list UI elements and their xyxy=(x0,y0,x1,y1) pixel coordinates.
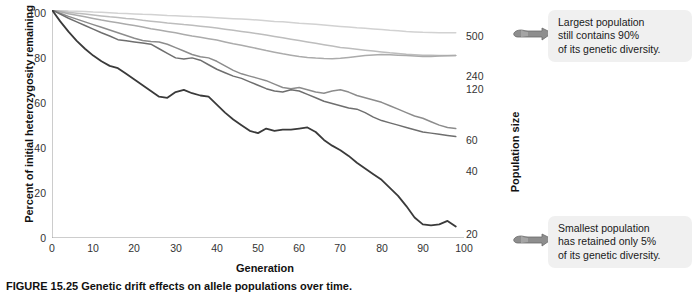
callout-line: still contains 90% xyxy=(558,29,684,42)
y-axis-tick-labels: 0 20 40 60 80 100 xyxy=(16,0,46,248)
plot-area xyxy=(52,10,464,238)
y-tick-label: 80 xyxy=(18,53,46,64)
y-tick-label: 60 xyxy=(18,98,46,109)
x-axis-title: Generation xyxy=(150,262,380,274)
callout-line: has retained only 5% xyxy=(558,235,684,248)
callout-largest-population: Largest population still contains 90% of… xyxy=(548,10,692,62)
y-tick-label: 40 xyxy=(18,143,46,154)
callout-line: Largest population xyxy=(558,16,684,29)
series-end-labels: 500 240 120 60 40 20 xyxy=(466,0,502,250)
x-tick-label: 50 xyxy=(243,243,273,254)
series-line-60 xyxy=(52,10,456,129)
x-tick-label: 70 xyxy=(325,243,355,254)
series-paths xyxy=(52,10,456,227)
series-label-60: 60 xyxy=(466,135,500,146)
callout-line: Smallest population xyxy=(558,222,684,235)
chart-canvas xyxy=(52,10,464,238)
x-tick-label: 60 xyxy=(284,243,314,254)
figure-caption: FIGURE 15.25 Genetic drift effects on al… xyxy=(6,280,566,292)
series-label-500: 500 xyxy=(466,31,500,42)
series-label-20: 20 xyxy=(466,229,500,240)
callout-smallest-population: Smallest population has retained only 5%… xyxy=(548,216,692,268)
series-label-120: 120 xyxy=(466,84,500,95)
y-tick-label: 100 xyxy=(18,8,46,19)
population-size-axis-title: Population size xyxy=(509,97,521,207)
y-tick-label: 0 xyxy=(18,233,46,244)
x-tick-label: 10 xyxy=(78,243,108,254)
x-tick-label: 40 xyxy=(202,243,232,254)
series-label-40: 40 xyxy=(466,166,500,177)
callout-line: of its genetic diversity. xyxy=(558,249,684,262)
axis-lines xyxy=(52,10,464,238)
x-tick-label: 20 xyxy=(119,243,149,254)
axis-ticks xyxy=(52,10,464,238)
x-tick-label: 30 xyxy=(161,243,191,254)
x-axis-tick-labels: 0 10 20 30 40 50 60 70 80 90 100 xyxy=(52,243,464,259)
series-line-40 xyxy=(52,10,456,137)
series-label-240: 240 xyxy=(466,71,500,82)
callout-line: of its genetic diversity. xyxy=(558,43,684,56)
series-line-240 xyxy=(52,10,456,56)
x-tick-label: 90 xyxy=(408,243,438,254)
x-tick-label: 0 xyxy=(37,243,67,254)
y-tick-label: 20 xyxy=(18,188,46,199)
x-tick-label: 80 xyxy=(367,243,397,254)
series-line-20 xyxy=(52,10,456,227)
